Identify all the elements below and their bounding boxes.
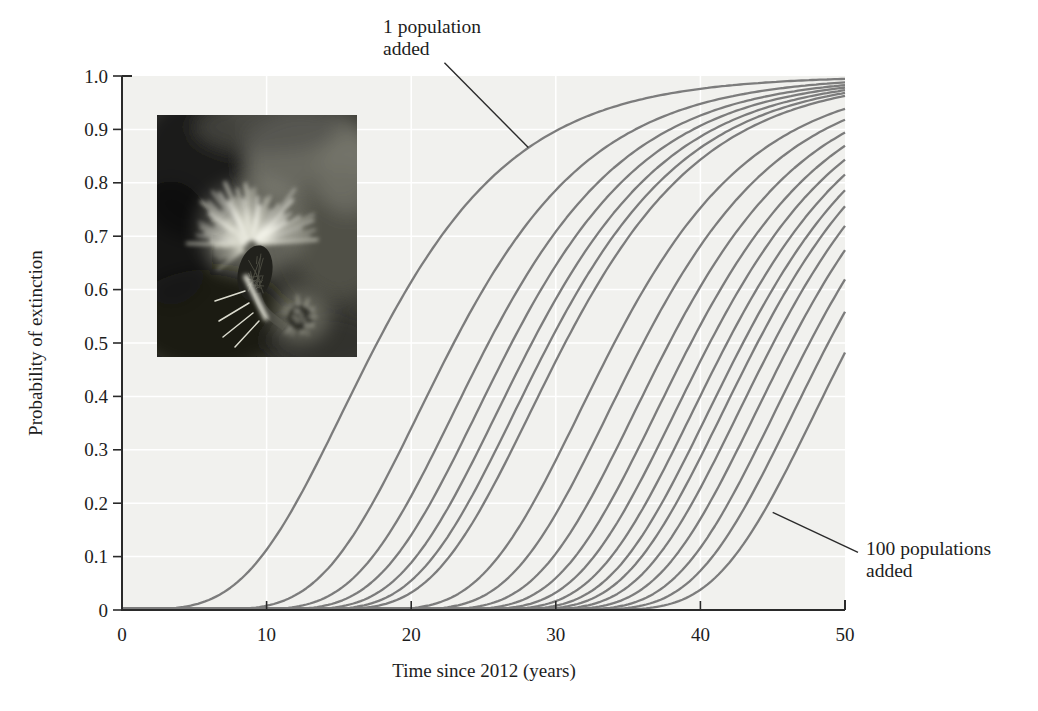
annotation-1-population-line2: added xyxy=(383,38,481,60)
annotation-1-population: 1 population added xyxy=(383,16,481,60)
y-tick-label: 0.6 xyxy=(84,279,108,300)
thistle-photo xyxy=(157,115,357,357)
y-tick-label: 0.1 xyxy=(84,546,108,567)
x-axis-title: Time since 2012 (years) xyxy=(392,660,575,682)
extinction-chart: 00.10.20.30.40.50.60.70.80.91.0010203040… xyxy=(0,0,1038,711)
y-tick-label: 1.0 xyxy=(84,66,108,87)
x-tick-label: 40 xyxy=(691,624,710,645)
x-tick-label: 10 xyxy=(257,624,276,645)
x-tick-label: 20 xyxy=(402,624,421,645)
x-tick-label: 30 xyxy=(546,624,565,645)
x-tick-label: 50 xyxy=(836,624,855,645)
y-tick-label: 0.9 xyxy=(84,119,108,140)
thistle-photo-image xyxy=(157,115,357,357)
y-tick-label: 0 xyxy=(99,600,109,621)
y-tick-label: 0.4 xyxy=(84,386,108,407)
annotation-1-population-line1: 1 population xyxy=(383,16,481,38)
y-tick-label: 0.2 xyxy=(84,493,108,514)
y-axis-title: Probability of extinction xyxy=(25,250,47,436)
y-tick-label: 0.8 xyxy=(84,172,108,193)
y-tick-label: 0.5 xyxy=(84,333,108,354)
x-tick-label: 0 xyxy=(117,624,127,645)
annotation-100-populations-line2: added xyxy=(866,560,991,582)
y-tick-label: 0.3 xyxy=(84,439,108,460)
y-tick-label: 0.7 xyxy=(84,226,108,247)
annotation-100-populations: 100 populations added xyxy=(866,538,991,582)
figure: 00.10.20.30.40.50.60.70.80.91.0010203040… xyxy=(0,0,1038,711)
annotation-100-populations-line1: 100 populations xyxy=(866,538,991,560)
